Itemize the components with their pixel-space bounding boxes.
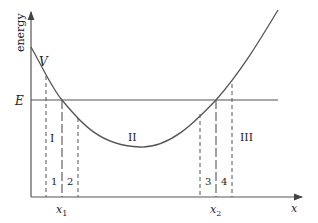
- y-axis-label: energy: [14, 13, 27, 52]
- strip-label-1: 1: [51, 176, 57, 187]
- curve-label-v: V: [39, 55, 49, 69]
- turning-point-x2-label: x2: [210, 203, 221, 218]
- strip-label-2: 2: [67, 176, 73, 187]
- region-label-3: III: [240, 131, 253, 144]
- region-label-2: II: [128, 131, 137, 144]
- turning-point-x1-label: x1: [56, 203, 67, 218]
- strip-label-4: 4: [221, 176, 227, 187]
- potential-curve: [31, 10, 278, 147]
- x-axis-label: x: [291, 202, 298, 215]
- region-label-1: I: [50, 132, 54, 145]
- strip-label-3: 3: [205, 176, 211, 187]
- energy-label-e: E: [14, 94, 24, 108]
- energy-diagram: energy V E I II III 1 2 3 4 x1 x2 x: [0, 0, 318, 223]
